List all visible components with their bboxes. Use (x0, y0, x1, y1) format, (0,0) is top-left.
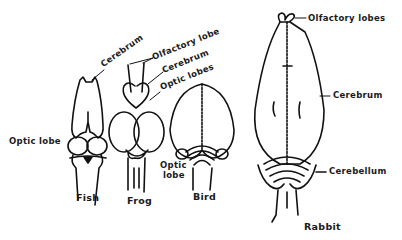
rabbit-olfactory-lobes-label: Olfactory lobes (308, 14, 385, 23)
fish-brain (68, 77, 107, 205)
rabbit-cerebrum-label: Cerebrum (333, 91, 383, 100)
fish-optic-lobe-label: Optic lobe (9, 137, 61, 146)
rabbit-caption: Rabbit (304, 222, 341, 232)
bird-optic-lobe-label-line2: lobe (163, 171, 185, 180)
rabbit-brain (255, 13, 326, 222)
frog-brain (109, 63, 164, 192)
fish-caption: Fish (76, 193, 99, 203)
rabbit-cerebellum-label: Cerebellum (329, 167, 387, 176)
frog-caption: Frog (127, 196, 152, 206)
bird-caption: Bird (193, 192, 216, 202)
bird-optic-lobe-label-line1: Optic (160, 161, 187, 170)
